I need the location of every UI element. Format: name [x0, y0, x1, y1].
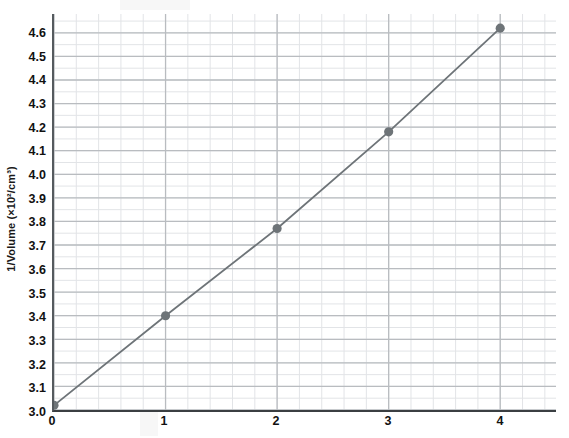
y-tick-label: 4.5: [29, 50, 46, 64]
y-axis-tick-labels: 3.03.13.23.33.43.53.63.73.83.94.04.14.24…: [14, 14, 50, 412]
y-tick-label: 3.8: [29, 215, 46, 229]
y-tick-label: 4.6: [29, 26, 46, 40]
x-tick-label: 1: [161, 414, 168, 428]
data-series: [54, 14, 556, 410]
plot-area: [52, 14, 556, 412]
y-tick-label: 3.9: [29, 192, 46, 206]
y-tick-label: 3.4: [29, 310, 46, 324]
y-tick-label: 4.0: [29, 168, 46, 182]
x-tick-label: 3: [385, 414, 392, 428]
y-tick-label: 4.4: [29, 73, 46, 87]
x-tick-label: 2: [273, 414, 280, 428]
y-tick-label: 3.7: [29, 239, 46, 253]
chart-container: 1/Volume (×10²/cm³) 3.03.13.23.33.43.53.…: [0, 0, 569, 438]
y-tick-label: 3.2: [29, 358, 46, 372]
y-tick-label: 3.3: [29, 334, 46, 348]
y-tick-label: 3.5: [29, 287, 46, 301]
y-tick-label: 3.1: [29, 381, 46, 395]
y-tick-label: 4.1: [29, 144, 46, 158]
x-axis-tick-labels: 01234: [52, 414, 556, 436]
x-tick-label: 0: [49, 414, 56, 428]
y-tick-label: 3.6: [29, 263, 46, 277]
y-tick-label: 4.2: [29, 121, 46, 135]
x-tick-label: 4: [497, 414, 504, 428]
scan-smudge: [120, 0, 190, 10]
y-tick-label: 4.3: [29, 97, 46, 111]
y-tick-label: 3.0: [29, 405, 46, 419]
